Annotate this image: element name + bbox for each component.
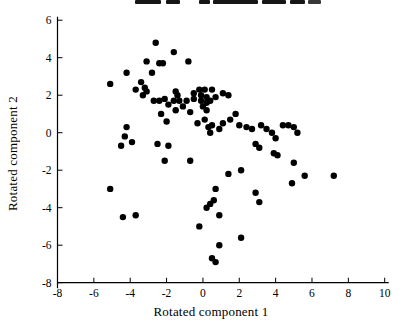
data-point — [107, 186, 113, 192]
data-point — [160, 60, 166, 66]
data-point — [191, 96, 197, 102]
data-point — [291, 124, 297, 130]
x-tick-label: 2 — [236, 287, 242, 299]
y-tick-label: -6 — [42, 239, 52, 251]
scatter-figure: -8-6-4-20246810-8-6-4-20246 Rotated comp… — [0, 0, 407, 334]
y-tick-label: -4 — [42, 202, 52, 214]
data-point — [256, 145, 262, 151]
data-point — [220, 90, 226, 96]
data-point — [232, 111, 238, 117]
y-tick-label: 0 — [46, 127, 52, 139]
data-point — [227, 116, 233, 122]
data-point — [225, 92, 231, 98]
data-point — [238, 235, 244, 241]
data-point — [198, 98, 204, 104]
data-point — [225, 171, 231, 177]
data-point — [216, 212, 222, 218]
data-point — [256, 199, 262, 205]
data-point — [133, 86, 139, 92]
y-tick-label: 4 — [46, 52, 52, 64]
data-point — [280, 122, 286, 128]
data-point — [122, 133, 128, 139]
data-point — [187, 109, 193, 115]
data-point — [269, 130, 275, 136]
data-point — [129, 139, 135, 145]
data-point — [163, 118, 169, 124]
data-point — [258, 122, 264, 128]
data-point — [171, 98, 177, 104]
data-point — [207, 98, 213, 104]
data-point — [191, 90, 197, 96]
data-point — [274, 152, 280, 158]
data-point — [211, 197, 217, 203]
data-point — [174, 92, 180, 98]
data-point — [123, 124, 129, 130]
data-point — [165, 143, 171, 149]
data-point — [118, 143, 124, 149]
data-point — [331, 173, 337, 179]
data-point — [216, 242, 222, 248]
data-point — [212, 186, 218, 192]
data-point — [216, 126, 222, 132]
data-point — [202, 86, 208, 92]
data-point — [205, 124, 211, 130]
y-tick-label: 2 — [46, 89, 52, 101]
y-tick-label: -8 — [42, 277, 52, 289]
data-point — [236, 122, 242, 128]
data-point — [187, 158, 193, 164]
data-point — [133, 212, 139, 218]
x-axis-title: Rotated component 1 — [61, 304, 361, 320]
data-point — [149, 70, 155, 76]
data-point — [154, 141, 160, 147]
y-tick-label: 6 — [46, 14, 52, 26]
data-point — [171, 49, 177, 55]
data-point — [138, 79, 144, 85]
data-point — [143, 58, 149, 64]
data-point — [173, 107, 179, 113]
data-point — [162, 96, 168, 102]
data-point — [203, 107, 209, 113]
data-point — [272, 135, 278, 141]
data-point — [291, 160, 297, 166]
data-point — [289, 180, 295, 186]
data-point — [252, 190, 258, 196]
x-tick-label: 8 — [345, 287, 351, 299]
data-point — [180, 103, 186, 109]
data-point — [176, 98, 182, 104]
x-tick-label: 10 — [379, 287, 391, 299]
data-point — [202, 116, 208, 122]
x-tick-label: -2 — [162, 287, 172, 299]
data-point — [198, 92, 204, 98]
data-point — [212, 94, 218, 100]
x-tick-label: -8 — [53, 287, 63, 299]
x-tick-label: 6 — [309, 287, 315, 299]
data-point — [143, 88, 149, 94]
data-point — [123, 70, 129, 76]
scatter-plot: -8-6-4-20246810-8-6-4-20246 — [0, 0, 407, 334]
x-tick-label: 4 — [273, 287, 279, 299]
data-point — [185, 58, 191, 64]
data-point — [153, 40, 159, 46]
data-point — [207, 130, 213, 136]
y-axis-title: Rotated component 2 — [5, 88, 21, 220]
data-point — [194, 120, 200, 126]
data-point — [162, 158, 168, 164]
data-point — [220, 120, 226, 126]
data-point — [209, 86, 215, 92]
data-point — [120, 214, 126, 220]
data-point — [263, 126, 269, 132]
data-point — [165, 101, 171, 107]
data-point — [151, 98, 157, 104]
x-tick-label: -6 — [89, 287, 99, 299]
data-point — [158, 111, 164, 117]
data-point — [107, 81, 113, 87]
data-point — [249, 126, 255, 132]
data-point — [302, 173, 308, 179]
data-point — [238, 167, 244, 173]
data-point — [294, 130, 300, 136]
y-tick-label: -2 — [42, 164, 52, 176]
data-point — [243, 124, 249, 130]
x-tick-label: -4 — [125, 287, 135, 299]
x-tick-label: 0 — [200, 287, 206, 299]
data-point — [183, 98, 189, 104]
